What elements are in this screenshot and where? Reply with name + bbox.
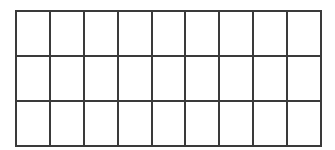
grid-cell [85, 102, 119, 147]
grid-cell [51, 12, 85, 57]
grid-cell [119, 12, 153, 57]
grid-cell [85, 57, 119, 102]
grid-cell [220, 57, 254, 102]
grid-cell [254, 57, 288, 102]
grid-cell [119, 57, 153, 102]
grid-cell [51, 102, 85, 147]
grid-cell [186, 12, 220, 57]
grid-cell [153, 57, 187, 102]
grid-cell [153, 12, 187, 57]
grid-cell [85, 12, 119, 57]
grid-cell [220, 12, 254, 57]
grid-cell [17, 102, 51, 147]
grid-cell [51, 57, 85, 102]
grid-cell [220, 102, 254, 147]
grid-cell [17, 12, 51, 57]
grid-cell [186, 102, 220, 147]
grid-cell [288, 102, 322, 147]
grid-cell [254, 12, 288, 57]
grid-cell [254, 102, 288, 147]
grid-cell [17, 57, 51, 102]
grid-cell [153, 102, 187, 147]
empty-grid-diagram [15, 10, 322, 147]
grid-cell [288, 12, 322, 57]
grid-cell [186, 57, 220, 102]
grid-cell [288, 57, 322, 102]
grid-cell [119, 102, 153, 147]
